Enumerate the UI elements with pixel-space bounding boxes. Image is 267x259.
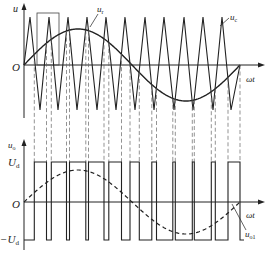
bottom-x-axis-label: ωt <box>246 210 255 220</box>
bottom-origin-label: O <box>12 198 20 210</box>
projection-lines <box>34 30 240 162</box>
top-x-axis-arrow-icon <box>258 63 265 68</box>
bottom-y-axis-arrow-icon <box>22 139 27 146</box>
top-y-axis-arrow-icon <box>22 3 27 10</box>
high-level-label: Ud <box>8 156 20 170</box>
bottom-x-axis-arrow-icon <box>258 200 265 205</box>
carrier-wave-uc <box>24 17 240 110</box>
ur-leader-line <box>90 14 98 27</box>
top-plot: u O ωt ur uc <box>12 3 265 118</box>
reference-label: ur <box>97 4 104 15</box>
top-origin-label: O <box>12 61 20 73</box>
fundamental-label: uo1 <box>245 229 256 240</box>
spwm-diagram: u O ωt ur uc uo Ud O −Ud ωt uo1 <box>0 0 267 259</box>
top-y-axis-label: u <box>13 3 18 14</box>
uo1-leader-line <box>232 204 246 230</box>
pwm-output-uo <box>24 162 244 240</box>
carrier-label: uc <box>230 12 238 23</box>
highlight-box <box>37 13 59 65</box>
bottom-y-axis-label: uo <box>8 140 16 151</box>
low-level-label: −Ud <box>0 233 19 247</box>
top-x-axis-label: ωt <box>246 74 255 84</box>
bottom-plot: uo Ud O −Ud ωt uo1 <box>0 139 265 250</box>
